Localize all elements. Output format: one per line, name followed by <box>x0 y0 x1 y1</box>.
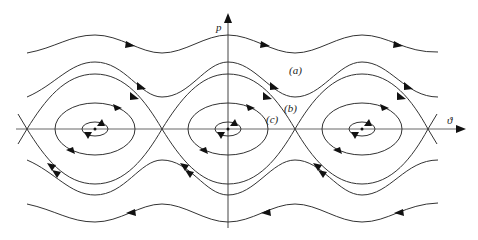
phase-portrait-svg <box>0 0 478 240</box>
arrow-icon <box>246 104 255 111</box>
arrow-icon <box>318 170 327 178</box>
arrow-icon <box>263 92 272 100</box>
phase-portrait-figure: p ϑ (a) (b) (c) <box>0 0 478 240</box>
arrow-icon <box>137 82 146 90</box>
p-axis-arrowhead <box>224 13 232 23</box>
theta-axis-arrowhead <box>456 125 466 133</box>
center-point-left <box>94 128 97 131</box>
arrow-icon <box>185 170 194 178</box>
orbit-a-upper <box>27 62 438 97</box>
theta-axis-label: ϑ <box>447 115 452 126</box>
running-orbit-bottom <box>27 203 438 222</box>
arrow-icon <box>125 41 135 48</box>
arrow-icon <box>380 104 389 111</box>
arrow-icon <box>52 170 61 178</box>
arrow-icon <box>393 41 403 48</box>
arrow-icon <box>394 209 404 216</box>
arrow-icon <box>404 82 413 90</box>
center-point-center <box>227 128 230 131</box>
arrow-icon <box>113 104 122 111</box>
curve-label-b: (b) <box>284 103 297 114</box>
arrow-icon <box>126 209 136 216</box>
arrow-icon <box>47 163 56 171</box>
arrow-icon <box>270 82 279 90</box>
arrow-icon <box>130 92 139 100</box>
running-orbit-top <box>27 35 438 53</box>
curve-label-c: (c) <box>266 114 278 125</box>
curve-label-a: (a) <box>289 65 302 76</box>
orbit-a-lower <box>27 160 438 195</box>
p-axis-label: p <box>216 22 222 33</box>
arrow-icon <box>261 209 271 216</box>
center-point-right <box>361 128 364 131</box>
arrow-icon <box>397 92 406 100</box>
